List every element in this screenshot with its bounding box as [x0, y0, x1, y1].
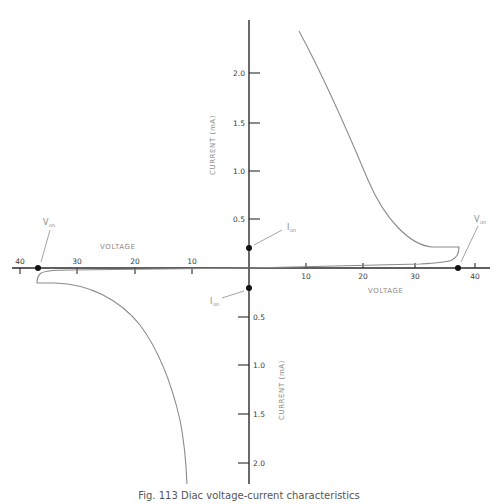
svg-text:on: on	[480, 219, 486, 225]
x-tick-label: 30	[410, 272, 420, 281]
i-on-positive-leader	[254, 230, 282, 245]
i-on-negative-point	[246, 285, 252, 291]
y-tick-label: 1.5	[253, 410, 265, 419]
x-tick-label: 10	[187, 257, 197, 266]
x-tick-label: 40	[470, 272, 480, 281]
x-tick-label: 10	[301, 272, 311, 281]
i-on-positive-label: I on	[287, 223, 296, 233]
v-on-negative-leader	[41, 230, 50, 262]
y-tick-label: 0.5	[233, 215, 245, 224]
svg-text:I: I	[210, 297, 212, 306]
y-axis-label-lower: CURRENT (mA)	[278, 360, 286, 420]
svg-text:on: on	[290, 227, 296, 233]
svg-text:on: on	[213, 301, 219, 307]
i-on-negative-leader	[222, 291, 244, 298]
v-on-negative-point	[35, 265, 41, 271]
figure-caption: Fig. 113 Diac voltage-current characteri…	[0, 490, 498, 501]
diac-iv-chart: 10 20 30 40 40 30 20 10 2.0 1.5 1.0 0.5 …	[0, 0, 498, 504]
i-on-positive-point	[246, 245, 252, 251]
y-axis-label-upper: CURRENT (mA)	[209, 115, 217, 175]
x-axis-label-right: VOLTAGE	[368, 287, 404, 295]
x-tick-label: 30	[72, 257, 82, 266]
v-on-negative-label: V on	[43, 218, 55, 228]
svg-text:on: on	[49, 222, 55, 228]
y-tick-label: 0.5	[253, 313, 265, 322]
x-tick-label: 20	[130, 257, 140, 266]
x-tick-label: 20	[358, 272, 368, 281]
x-axis-label-left: VOLTAGE	[100, 243, 136, 251]
svg-text:I: I	[287, 223, 289, 232]
y-tick-label: 2.0	[233, 69, 245, 78]
y-tick-label: 1.0	[233, 167, 245, 176]
forward-characteristic-curve	[249, 31, 459, 268]
y-tick-label: 1.5	[233, 119, 245, 128]
v-on-positive-leader	[461, 226, 478, 262]
y-ticks-positive: 2.0 1.5 1.0 0.5	[233, 69, 260, 224]
v-on-positive-label: V on	[474, 215, 486, 225]
y-tick-label: 2.0	[253, 459, 265, 468]
x-ticks-negative: 40 30 20 10	[15, 257, 197, 274]
y-ticks-negative: 0.5 1.0 1.5 2.0	[238, 313, 265, 468]
x-tick-label: 40	[15, 257, 25, 266]
i-on-negative-label: I on	[210, 297, 219, 307]
v-on-positive-point	[455, 265, 461, 271]
y-tick-label: 1.0	[253, 361, 265, 370]
